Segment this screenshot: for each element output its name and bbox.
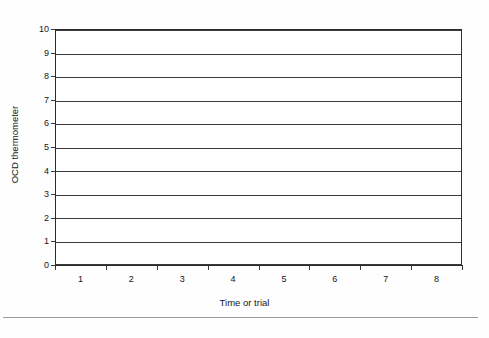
y-axis-tick-label: 7 xyxy=(29,96,49,105)
y-axis-tick-label: 6 xyxy=(29,119,49,128)
x-axis-tick xyxy=(259,266,260,270)
y-axis-tick-label: 8 xyxy=(29,72,49,81)
y-axis-tick xyxy=(51,241,55,242)
gridline xyxy=(56,195,461,196)
y-axis-tick-labels: 10 9 8 7 6 5 4 3 2 1 0 xyxy=(21,0,49,338)
x-axis-tick-label: 8 xyxy=(411,275,462,284)
y-axis-tick xyxy=(51,53,55,54)
x-axis-tick-label: 7 xyxy=(360,275,411,284)
y-axis-tick-label: 9 xyxy=(29,49,49,58)
gridline xyxy=(56,171,461,172)
plot-area xyxy=(55,29,462,265)
x-axis-tick-label: 3 xyxy=(157,275,208,284)
gridline xyxy=(56,77,461,78)
y-axis-tick-label: 5 xyxy=(29,143,49,152)
y-axis-tick xyxy=(51,194,55,195)
gridline xyxy=(56,101,461,102)
y-axis-tick xyxy=(51,29,55,30)
y-axis-tick xyxy=(51,218,55,219)
y-axis-title: OCD thermometer xyxy=(9,85,20,205)
x-axis-tick-label: 2 xyxy=(106,275,157,284)
y-axis-line xyxy=(55,29,56,265)
x-axis-tick xyxy=(106,266,107,270)
x-axis-tick-label: 6 xyxy=(309,275,360,284)
chart-page: 10 9 8 7 6 5 4 3 2 1 0 OCD thermometer 1… xyxy=(0,0,489,338)
gridline xyxy=(56,242,461,243)
x-axis-tick xyxy=(55,266,56,270)
y-axis-tick-label: 0 xyxy=(29,261,49,270)
gridline xyxy=(56,30,461,31)
y-axis-tick-label: 4 xyxy=(29,167,49,176)
y-axis-tick xyxy=(51,100,55,101)
x-axis-tick xyxy=(411,266,412,270)
y-axis-tick xyxy=(51,123,55,124)
footer-divider xyxy=(3,317,478,318)
gridline xyxy=(56,54,461,55)
y-axis-tick-label: 3 xyxy=(29,190,49,199)
y-axis-tick-label: 1 xyxy=(29,237,49,246)
x-axis-tick xyxy=(157,266,158,270)
x-axis-tick xyxy=(360,266,361,270)
y-axis-tick xyxy=(51,76,55,77)
x-axis-tick-label: 1 xyxy=(55,275,106,284)
gridline xyxy=(56,124,461,125)
x-axis-tick-label: 4 xyxy=(208,275,259,284)
gridline xyxy=(56,218,461,219)
y-axis-tick-label: 10 xyxy=(29,25,49,34)
x-axis-title: Time or trial xyxy=(0,297,489,308)
y-axis-tick-label: 2 xyxy=(29,214,49,223)
x-axis-tick xyxy=(462,266,463,270)
y-axis-tick xyxy=(51,147,55,148)
x-axis-tick xyxy=(309,266,310,270)
gridline xyxy=(56,148,461,149)
x-axis-tick-label: 5 xyxy=(259,275,310,284)
y-axis-tick xyxy=(51,171,55,172)
x-axis-tick xyxy=(208,266,209,270)
